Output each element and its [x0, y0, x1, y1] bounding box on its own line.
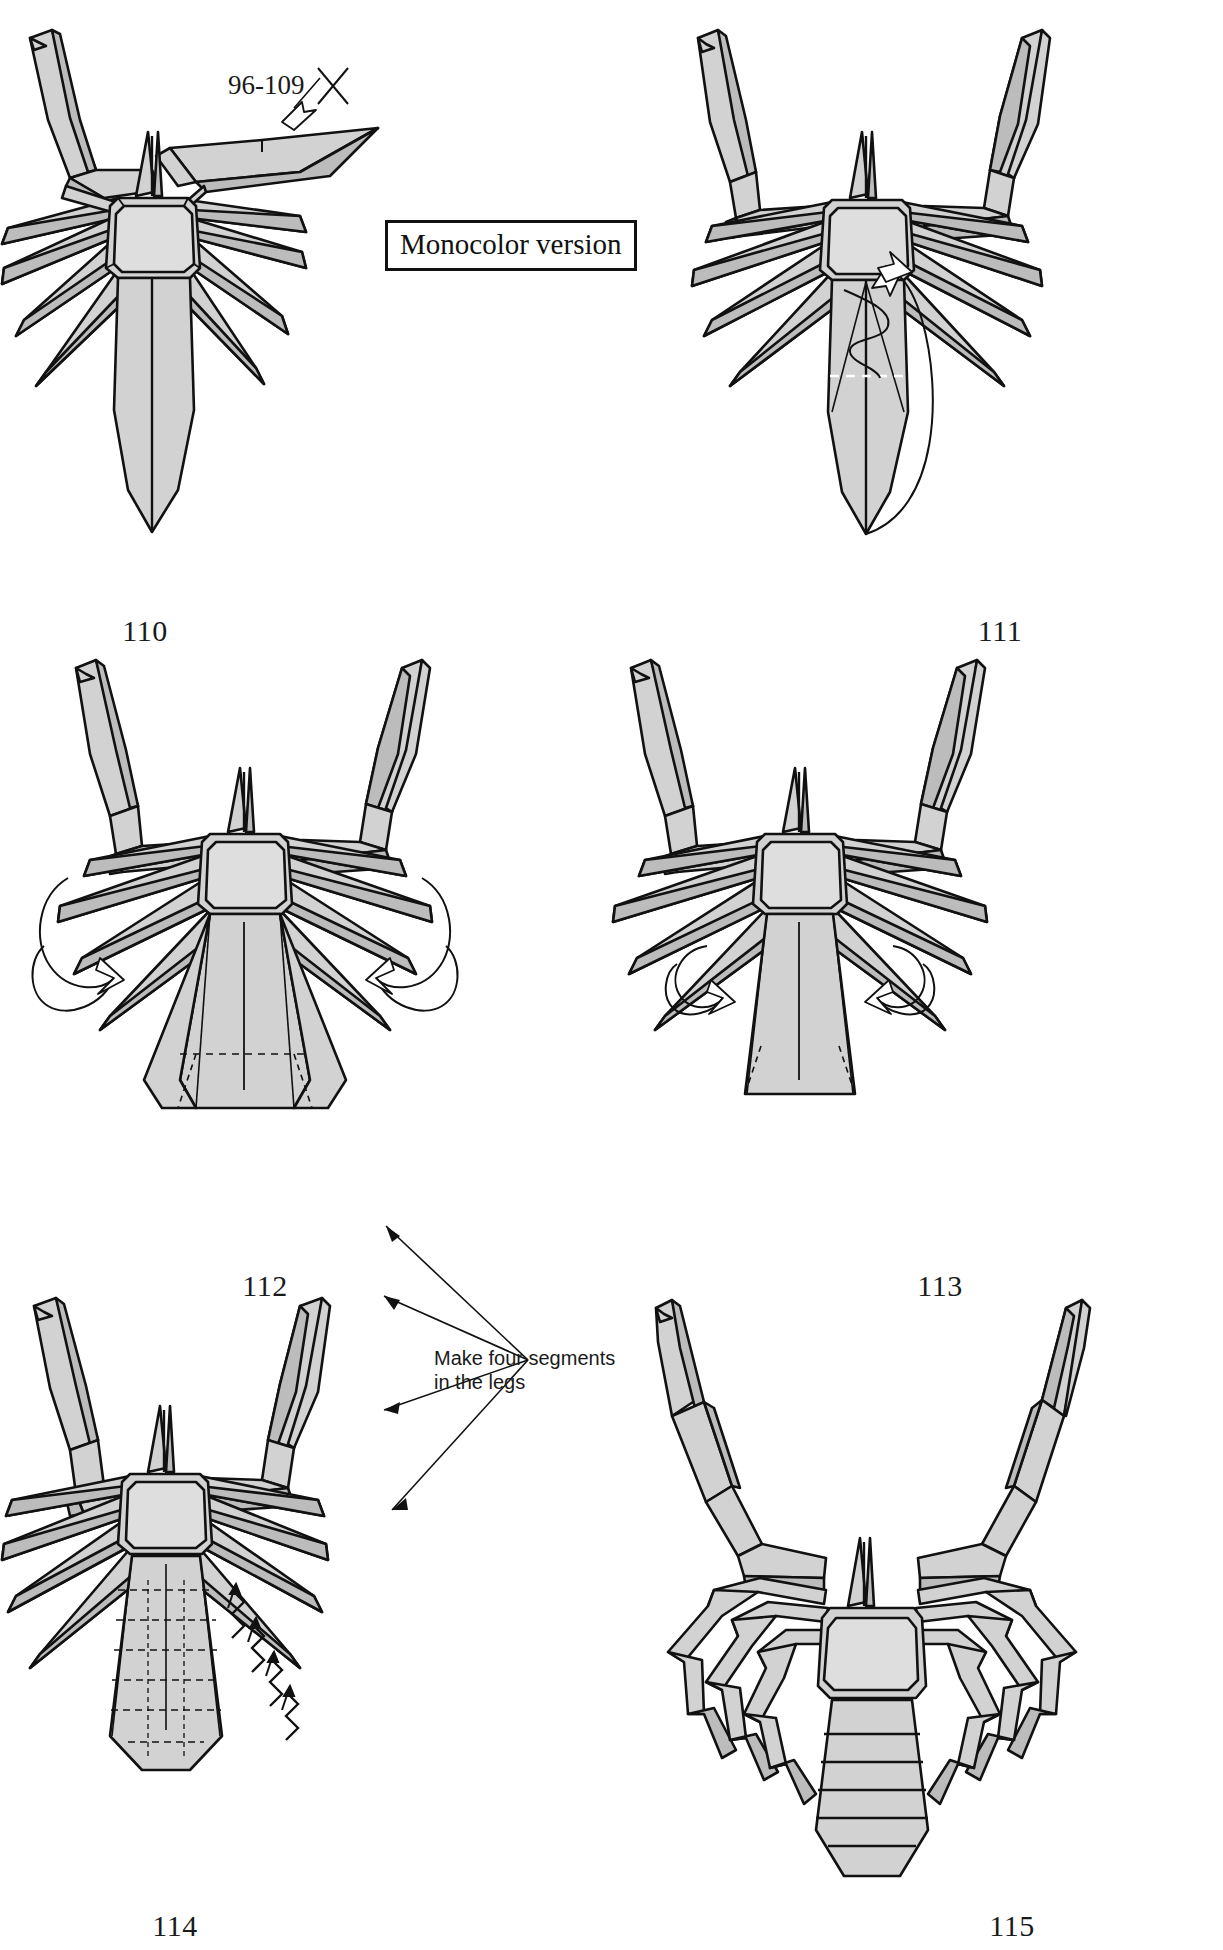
- annotation-repeat-arrow: [280, 60, 410, 150]
- step-111-drawing: [640, 20, 1100, 600]
- step-number-114: 114: [115, 1909, 235, 1943]
- step-number-110: 110: [85, 614, 205, 648]
- step-number-111: 111: [940, 614, 1060, 648]
- monocolor-version-callout: Monocolor version: [385, 220, 637, 271]
- step-115-drawing: [610, 1290, 1130, 1910]
- legs-note-line-1: Make four segments: [434, 1346, 615, 1370]
- legs-note-line-2: in the legs: [434, 1370, 615, 1394]
- figure-step-112: [10, 650, 490, 1260]
- step-112-drawing: [10, 650, 490, 1260]
- step-113-drawing: [565, 650, 1045, 1260]
- figure-step-111: [640, 20, 1100, 600]
- diagram-page: 96-109 Monocolor version 110: [0, 0, 1223, 1950]
- annotation-legs-note: Make four segments in the legs: [434, 1346, 615, 1395]
- step-number-115: 115: [952, 1909, 1072, 1943]
- figure-step-115: [610, 1290, 1130, 1910]
- figure-step-113: [565, 650, 1045, 1260]
- repeat-arrow-drawing: [280, 60, 410, 150]
